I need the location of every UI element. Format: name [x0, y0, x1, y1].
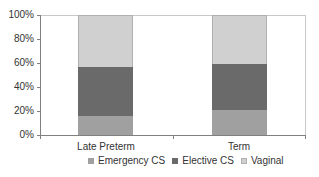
x-label-term: Term	[189, 141, 289, 152]
x-tick	[173, 135, 174, 139]
y-tick-label: 60%	[0, 58, 34, 68]
segment-elective-cs	[78, 67, 133, 116]
bar-term	[212, 15, 267, 135]
y-tick	[37, 15, 40, 16]
segment-vaginal	[78, 15, 133, 67]
y-tick	[37, 39, 40, 40]
legend-item-emergency-cs: Emergency CS	[88, 155, 165, 166]
x-label-late-preterm: Late Preterm	[56, 141, 156, 152]
bar-late-preterm	[78, 15, 133, 135]
legend-label: Elective CS	[182, 155, 234, 166]
y-tick	[37, 87, 40, 88]
legend-swatch-icon	[172, 158, 178, 164]
y-tick-label: 0%	[0, 130, 34, 140]
x-tick	[40, 135, 41, 139]
y-tick-label: 100%	[0, 10, 34, 20]
legend-item-vaginal: Vaginal	[241, 155, 284, 166]
segment-emergency-cs	[78, 116, 133, 135]
segment-emergency-cs	[212, 110, 267, 135]
segment-elective-cs	[212, 64, 267, 110]
legend: Emergency CS Elective CS Vaginal	[88, 155, 291, 166]
legend-swatch-icon	[241, 158, 247, 164]
legend-label: Vaginal	[251, 155, 284, 166]
legend-label: Emergency CS	[98, 155, 165, 166]
y-axis	[40, 15, 41, 135]
y-tick-label: 80%	[0, 34, 34, 44]
y-tick-label: 20%	[0, 106, 34, 116]
y-tick	[37, 111, 40, 112]
legend-item-elective-cs: Elective CS	[172, 155, 234, 166]
segment-vaginal	[212, 15, 267, 64]
x-tick	[305, 135, 306, 139]
legend-swatch-icon	[88, 158, 94, 164]
y-tick	[37, 63, 40, 64]
y-tick-label: 40%	[0, 82, 34, 92]
